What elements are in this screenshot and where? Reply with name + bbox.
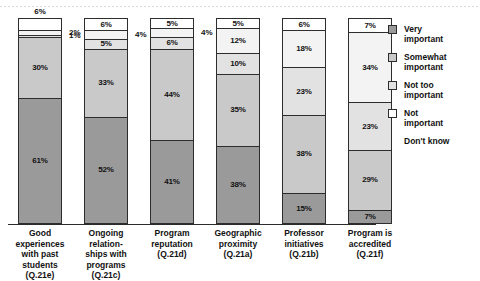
- segment-value-label: 6%: [34, 8, 46, 16]
- legend-swatch-icon: [388, 81, 397, 90]
- segment-good-experiences-don-t-know: 6%: [18, 18, 62, 30]
- segment-professor-initiatives-don-t-know: 6%: [282, 18, 326, 30]
- legend-label-line: important: [404, 34, 443, 44]
- segment-program-reputation-somewhat-important: 44%: [150, 49, 194, 140]
- legend-item-label: Veryimportant: [404, 24, 443, 44]
- segment-program-reputation-not-too-important: 6%: [150, 37, 194, 49]
- legend-swatch-icon: [388, 25, 397, 34]
- chart-canvas: 6%2%1%30%61%6%4%5%33%52%5%4%6%44%41%5%12…: [0, 0, 480, 281]
- segment-value-label: 34%: [362, 64, 377, 72]
- segment-geographic-proximity-not-too-important: 10%: [216, 53, 260, 74]
- segment-value-label: 4%: [135, 31, 147, 39]
- bar-program-reputation[interactable]: 5%4%6%44%41%: [150, 18, 194, 224]
- bar-geographic-proximity[interactable]: 5%12%10%35%38%: [216, 18, 260, 224]
- legend-item-not-too-important[interactable]: Not tooimportant: [388, 80, 480, 100]
- segment-program-accredited-very-important: 7%: [348, 210, 392, 224]
- legend-label-line: Very: [404, 24, 443, 34]
- segment-value-label: 33%: [98, 79, 113, 87]
- legend-label-line: Not too: [404, 80, 443, 90]
- x-axis-label-line: programs: [58, 260, 154, 271]
- segment-ongoing-relationships-somewhat-important: 33%: [84, 49, 128, 117]
- segment-good-experiences-very-important: 61%: [18, 98, 62, 224]
- segment-value-label: 41%: [164, 178, 179, 186]
- segment-value-label: 12%: [230, 37, 245, 45]
- x-axis-baseline: [8, 224, 376, 225]
- segment-program-reputation-not-important: 4%: [150, 28, 194, 36]
- segment-geographic-proximity-very-important: 38%: [216, 146, 260, 224]
- segment-professor-initiatives-very-important: 15%: [282, 193, 326, 224]
- segment-program-accredited-somewhat-important: 29%: [348, 150, 392, 210]
- legend-label-line: important: [404, 62, 447, 72]
- legend-item-label: Somewhatimportant: [404, 52, 447, 72]
- segment-value-label: 38%: [296, 150, 311, 158]
- segment-program-reputation-very-important: 41%: [150, 140, 194, 224]
- legend-label-line: Don't know: [404, 136, 449, 146]
- segment-value-label: 4%: [201, 29, 213, 37]
- segment-geographic-proximity-don-t-know: 5%: [216, 18, 260, 28]
- segment-ongoing-relationships-very-important: 52%: [84, 117, 128, 224]
- scan-artifact-rule: [0, 6, 480, 7]
- segment-value-label: 5%: [232, 20, 243, 28]
- segment-professor-initiatives-not-important: 18%: [282, 30, 326, 67]
- segment-program-accredited-not-too-important: 23%: [348, 102, 392, 149]
- segment-value-label: 29%: [362, 176, 377, 184]
- segment-geographic-proximity-not-important: 12%: [216, 28, 260, 53]
- segment-value-label: 23%: [362, 123, 377, 131]
- segment-good-experiences-somewhat-important: 30%: [18, 37, 62, 99]
- legend-label-line: Not: [404, 108, 443, 118]
- x-axis-label-line: Program is: [322, 228, 418, 239]
- legend-item-label: Don't know: [404, 136, 449, 146]
- legend-label-line: Somewhat: [404, 52, 447, 62]
- segment-ongoing-relationships-don-t-know: 6%: [84, 18, 128, 30]
- legend-label-line: important: [404, 90, 443, 100]
- segment-value-label: 18%: [296, 45, 311, 53]
- segment-value-label: 23%: [296, 88, 311, 96]
- x-axis-label-line: (Q.21c): [58, 270, 154, 281]
- bar-ongoing-relationships[interactable]: 6%4%5%33%52%: [84, 18, 128, 224]
- segment-geographic-proximity-somewhat-important: 35%: [216, 74, 260, 146]
- segment-program-reputation-don-t-know: 5%: [150, 18, 194, 28]
- segment-value-label: 5%: [166, 20, 177, 28]
- segment-ongoing-relationships-not-too-important: 5%: [84, 39, 128, 49]
- segment-value-label: 52%: [98, 166, 113, 174]
- legend-item-somewhat-important[interactable]: Somewhatimportant: [388, 52, 480, 72]
- segment-ongoing-relationships-not-important: 4%: [84, 30, 128, 38]
- bar-good-experiences[interactable]: 6%2%1%30%61%: [18, 18, 62, 224]
- segment-value-label: 38%: [230, 181, 245, 189]
- segment-value-label: 6%: [298, 21, 309, 29]
- legend-item-label: Notimportant: [404, 108, 443, 128]
- segment-professor-initiatives-not-too-important: 23%: [282, 67, 326, 114]
- x-axis-label-program-accredited: Program isaccredited(Q.21f): [322, 228, 418, 260]
- segment-value-label: 6%: [166, 39, 177, 47]
- segment-program-accredited-not-important: 34%: [348, 32, 392, 102]
- legend-item-don-t-know[interactable]: Don't know: [388, 136, 480, 146]
- x-axis-label-line: accredited: [322, 239, 418, 250]
- segment-value-label: 7%: [364, 213, 375, 221]
- legend-item-very-important[interactable]: Veryimportant: [388, 24, 480, 44]
- segment-value-label: 5%: [100, 40, 111, 48]
- segment-value-label: 30%: [32, 64, 47, 72]
- bar-program-accredited[interactable]: 7%34%23%29%7%: [348, 18, 392, 224]
- bar-professor-initiatives[interactable]: 6%18%23%38%15%: [282, 18, 326, 224]
- segment-value-label: 10%: [230, 60, 245, 68]
- legend-swatch-icon: [388, 53, 397, 62]
- x-axis-label-line: (Q.21f): [322, 249, 418, 260]
- segment-professor-initiatives-somewhat-important: 38%: [282, 115, 326, 193]
- legend-item-not-important[interactable]: Notimportant: [388, 108, 480, 128]
- segment-value-label: 44%: [164, 91, 179, 99]
- chart-legend: VeryimportantSomewhatimportantNot tooimp…: [388, 24, 480, 154]
- segment-value-label: 1%: [69, 32, 81, 40]
- segment-value-label: 61%: [32, 157, 47, 165]
- segment-value-label: 15%: [296, 205, 311, 213]
- legend-item-label: Not tooimportant: [404, 80, 443, 100]
- legend-swatch-icon: [388, 109, 397, 118]
- legend-swatch-placeholder: [388, 137, 397, 146]
- legend-label-line: important: [404, 118, 443, 128]
- plot-area: 6%2%1%30%61%6%4%5%33%52%5%4%6%44%41%5%12…: [0, 18, 378, 224]
- segment-value-label: 35%: [230, 106, 245, 114]
- segment-value-label: 6%: [100, 21, 111, 29]
- segment-program-accredited-don-t-know: 7%: [348, 18, 392, 32]
- segment-value-label: 7%: [364, 22, 375, 30]
